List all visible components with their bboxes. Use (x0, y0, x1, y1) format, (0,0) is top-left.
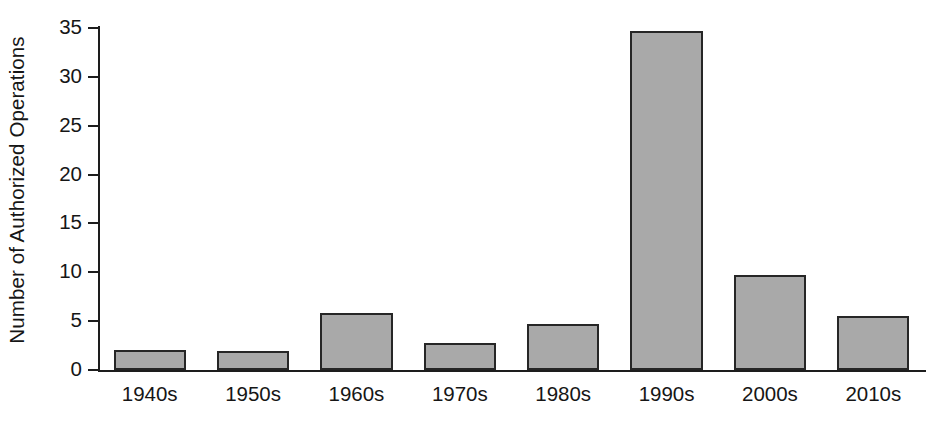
bar-group (320, 28, 392, 370)
y-axis-tick-label: 20 (20, 164, 82, 185)
y-axis-tick (88, 369, 98, 371)
x-axis-tick-label: 2010s (822, 382, 925, 406)
bar-group (527, 28, 599, 370)
x-axis-tick-label: 1940s (98, 382, 201, 406)
bar (527, 324, 599, 370)
y-axis-tick (88, 271, 98, 273)
y-axis-tick-label: 5 (20, 310, 82, 331)
bar (734, 275, 806, 370)
bar-group (837, 28, 909, 370)
x-axis-tick-label: 1950s (201, 382, 304, 406)
bar (320, 313, 392, 370)
y-axis-tick (88, 125, 98, 127)
x-axis-tick-label: 1960s (305, 382, 408, 406)
y-axis-tick-label: 35 (20, 17, 82, 38)
y-axis-tick-label: 30 (20, 66, 82, 87)
x-axis-tick-label: 2000s (718, 382, 821, 406)
bar-group (217, 28, 289, 370)
x-axis-tick-label: 1990s (615, 382, 718, 406)
y-axis-tick (88, 222, 98, 224)
y-axis-tick-label: 10 (20, 261, 82, 282)
y-axis-tick-label: 0 (20, 359, 82, 380)
bar (630, 31, 702, 370)
y-axis-tick (88, 174, 98, 176)
bar-group (630, 28, 702, 370)
y-axis-tick-label: 15 (20, 212, 82, 233)
x-axis-tick-label: 1970s (408, 382, 511, 406)
y-axis-tick-label: 25 (20, 115, 82, 136)
bar-group (114, 28, 186, 370)
bar (837, 316, 909, 370)
y-axis-tick (88, 320, 98, 322)
bar-group (734, 28, 806, 370)
bar-chart: Number of Authorized Operations 05101520… (0, 0, 948, 427)
bar (217, 351, 289, 370)
bar-group (424, 28, 496, 370)
x-axis-tick-label: 1980s (512, 382, 615, 406)
bar (114, 350, 186, 370)
plot-area (98, 28, 925, 370)
x-axis-line (98, 370, 926, 372)
bar (424, 343, 496, 370)
y-axis-tick (88, 27, 98, 29)
y-axis-tick (88, 76, 98, 78)
